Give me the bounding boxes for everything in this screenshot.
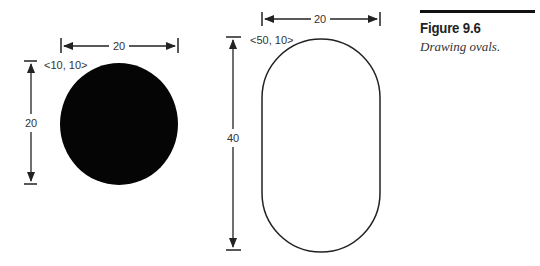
- circle-figure: 20 20 <10, 10>: [24, 38, 178, 185]
- figure-title: Figure 9.6: [420, 19, 521, 36]
- oval-width-label: 20: [314, 13, 326, 25]
- oval-width-dimension: 20: [262, 12, 380, 26]
- caption-rule: [420, 10, 535, 13]
- circle-height-dimension: 20: [24, 61, 37, 184]
- outlined-oval: [262, 39, 380, 252]
- figure-caption-text: Drawing ovals.: [420, 39, 535, 55]
- figure-caption: Figure 9.6 Drawing ovals.: [420, 10, 535, 55]
- circle-height-label: 20: [25, 117, 37, 129]
- oval-height-dimension: 40: [226, 37, 241, 250]
- circle-origin-label: <10, 10>: [44, 59, 87, 71]
- circle-width-dimension: 20: [61, 38, 178, 53]
- filled-circle: [60, 63, 178, 185]
- oval-origin-label: <50, 10>: [250, 34, 293, 46]
- oval-figure: 20 40 <50, 10>: [226, 12, 380, 252]
- circle-width-label: 20: [113, 40, 125, 52]
- oval-height-label: 40: [227, 132, 239, 144]
